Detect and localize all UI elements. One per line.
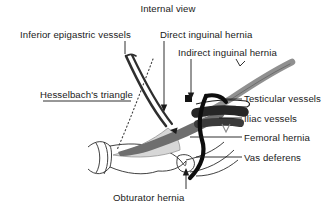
anatomical-figure: Internal view Inferior epigastric vessel…	[0, 0, 336, 214]
label-hesselbachs-triangle: Hesselbach's triangle	[40, 89, 133, 100]
figure-title: Internal view	[0, 3, 336, 14]
label-direct-inguinal-hernia: Direct inguinal hernia	[160, 29, 252, 40]
label-femoral-hernia: Femoral hernia	[244, 132, 310, 143]
label-iliac-vessels: Iliac vessels	[244, 113, 297, 124]
label-indirect-inguinal-hernia: Indirect inguinal hernia	[178, 47, 277, 58]
label-obturator-hernia: Obturator hernia	[113, 192, 184, 203]
label-vas-deferens: Vas deferens	[244, 152, 301, 163]
label-inferior-epigastric-vessels: Inferior epigastric vessels	[20, 29, 131, 40]
label-testicular-vessels: Testicular vessels	[244, 93, 321, 104]
leader-indirect-hernia	[236, 59, 245, 66]
